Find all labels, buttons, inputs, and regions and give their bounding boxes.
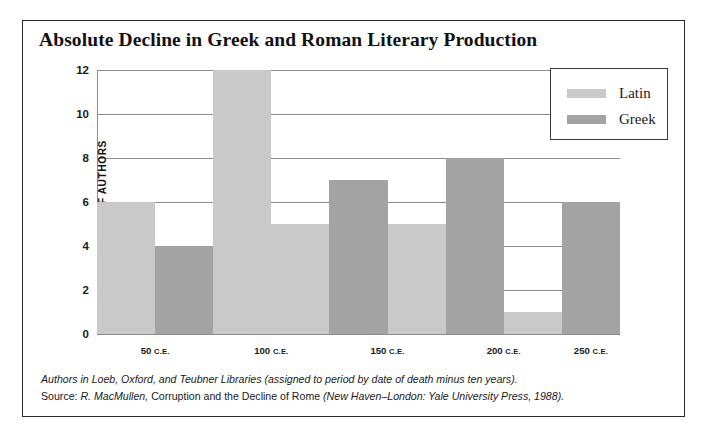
x-tick-250: 250 C.E. <box>574 345 608 356</box>
y-tick-12: 12 <box>76 64 89 76</box>
x-tick-number: 250 <box>574 345 593 356</box>
legend-label-greek: Greek <box>619 111 656 128</box>
latin-swatch <box>567 89 606 98</box>
x-tick-era: C.E. <box>592 347 608 356</box>
y-tick-10: 10 <box>76 108 89 120</box>
plot-area: 024681012 NUMBER OF AUTHORS 50 C.E.100 C… <box>97 70 620 334</box>
legend-item-greek: Greek <box>551 106 667 132</box>
bar-latin-100 <box>271 224 329 334</box>
x-tick-150: 150 C.E. <box>370 345 404 356</box>
footnote-publication: (New Haven–London: Yale University Press… <box>323 390 564 402</box>
x-tick-200: 200 C.E. <box>487 345 521 356</box>
chart-title: Absolute Decline in Greek and Roman Lite… <box>39 29 659 51</box>
x-tick-number: 100 <box>254 345 273 356</box>
x-tick-number: 200 <box>487 345 506 356</box>
bar-latin-50 <box>97 202 155 334</box>
bar-greek-200 <box>446 158 504 334</box>
legend: Latin Greek <box>550 68 668 140</box>
bar-latin-100 <box>213 70 271 334</box>
legend-item-latin: Latin <box>551 80 667 106</box>
footnote: Authors in Loeb, Oxford, and Teubner Lib… <box>41 371 666 404</box>
y-tick-8: 8 <box>83 152 89 164</box>
bar-greek-250 <box>562 202 620 334</box>
x-tick-50: 50 C.E. <box>141 345 170 356</box>
x-tick-number: 50 <box>141 345 154 356</box>
footnote-line-2: Source: R. MacMullen, Corruption and the… <box>41 388 666 404</box>
figure-frame: Absolute Decline in Greek and Roman Lite… <box>22 20 685 417</box>
x-tick-number: 150 <box>370 345 389 356</box>
x-tick-100: 100 C.E. <box>254 345 288 356</box>
legend-label-latin: Latin <box>619 85 651 102</box>
footnote-work-title: Corruption and the Decline of Rome <box>151 390 320 402</box>
footnote-source-label: Source: <box>41 390 78 402</box>
x-tick-era: C.E. <box>505 347 521 356</box>
y-tick-6: 6 <box>83 196 89 208</box>
greek-swatch <box>567 115 606 124</box>
bar-greek-150 <box>329 180 387 334</box>
gridline-0 <box>97 334 620 335</box>
x-tick-era: C.E. <box>273 347 289 356</box>
y-tick-0: 0 <box>83 328 89 340</box>
footnote-line-1: Authors in Loeb, Oxford, and Teubner Lib… <box>41 371 666 387</box>
footnote-author: R. MacMullen, <box>80 390 148 402</box>
bar-latin-150 <box>388 224 446 334</box>
x-tick-era: C.E. <box>154 347 170 356</box>
bar-greek-50 <box>155 246 213 334</box>
bar-series <box>97 70 620 334</box>
bar-latin-200 <box>504 312 562 334</box>
x-tick-era: C.E. <box>389 347 405 356</box>
y-tick-4: 4 <box>83 240 89 252</box>
y-tick-2: 2 <box>83 284 89 296</box>
